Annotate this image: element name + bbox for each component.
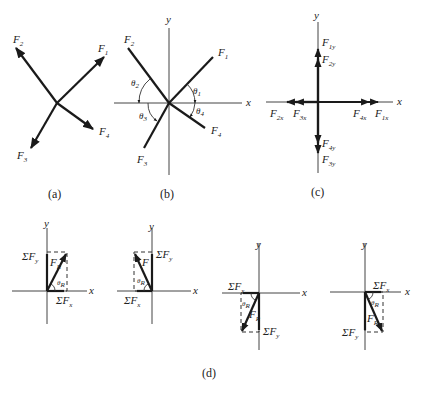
caption-b: (b) [160, 187, 174, 201]
label-sum-fy: ΣFy [262, 325, 280, 340]
panel-d1: y x ΣFy ΣFx FR θR [12, 217, 94, 324]
label-theta-r: θR [57, 279, 65, 289]
label-sum-fy: ΣFy [21, 250, 39, 265]
x-axis-label: x [245, 96, 251, 108]
label-f4: F4 [210, 124, 222, 139]
label-theta-r: θR [137, 277, 145, 287]
vector-f3 [31, 103, 57, 148]
vector-f2 [128, 48, 169, 103]
label-f1: F1 [217, 46, 228, 61]
label-theta3: θ3 [139, 111, 147, 123]
label-resultant: FR [49, 256, 62, 271]
angle-arc-theta4 [190, 103, 195, 117]
label-f3y: F3y [321, 153, 336, 168]
vector-f3 [144, 103, 169, 148]
label-f2: F2 [12, 33, 24, 48]
panel-d2: y x ΣFy ΣFx F θR [117, 220, 198, 324]
angle-arc-theta3 [148, 103, 157, 121]
panel-b: y x θ1 θ2 θ3 θ4 F1 F2 F3 F4 (b) [114, 13, 251, 201]
label-f4x: F4x [352, 107, 367, 122]
label-f3: F3 [136, 153, 148, 168]
caption-a: (a) [48, 187, 61, 201]
panel-d3: y x ΣFx ΣFy FR θR [222, 238, 307, 350]
vector-f4 [57, 103, 93, 129]
label-sum-fx: ΣFx [55, 294, 73, 309]
label-f3x: F3x [292, 107, 307, 122]
label-f3: F3 [16, 149, 28, 164]
caption-c: (c) [311, 185, 324, 199]
panel-d4: y x ΣFx ΣFy FR θR [330, 238, 410, 350]
label-theta-r: θR [242, 300, 250, 310]
y-axis-label: y [43, 217, 49, 229]
label-theta4: θ4 [196, 106, 204, 118]
y-axis-label: y [313, 9, 319, 21]
label-f1y: F1y [321, 36, 336, 51]
label-f1x: F1x [374, 107, 389, 122]
x-axis-label: x [404, 285, 410, 297]
y-axis-label: y [148, 220, 154, 232]
label-f2y: F2y [321, 53, 336, 68]
y-axis-label: y [165, 13, 171, 25]
x-axis-label: x [88, 284, 94, 296]
label-f4y: F4y [321, 137, 336, 152]
x-axis-label: x [301, 286, 307, 298]
label-theta2: θ2 [131, 78, 139, 90]
vector-f1 [169, 57, 213, 103]
label-resultant: FR [366, 312, 379, 327]
panel-a: F1 F2 F3 F4 (a) [12, 33, 110, 201]
y-axis-label: y [255, 238, 261, 250]
label-sum-fy: ΣFy [341, 326, 359, 341]
vector-f2 [16, 48, 57, 103]
panel-c: y x F1y F2y F2x F3x F4x F1x F4y F3y (c) [266, 9, 402, 199]
label-sum-fy: ΣFy [155, 248, 173, 263]
label-sum-fx: ΣFx [123, 294, 141, 309]
y-axis-label: y [361, 238, 367, 250]
label-resultant: F [141, 256, 149, 268]
label-f1: F1 [97, 42, 108, 57]
label-f2x: F2x [269, 107, 284, 122]
caption-d: (d) [202, 366, 216, 380]
x-axis-label: x [192, 284, 198, 296]
label-f2: F2 [123, 33, 135, 48]
force-diagram-figure: F1 F2 F3 F4 (a) y x θ1 θ2 θ3 θ4 F1 F2 F3… [0, 0, 424, 394]
vector-f1 [57, 57, 104, 103]
angle-arc-theta2 [139, 79, 150, 103]
x-axis-label: x [396, 95, 402, 107]
label-f4: F4 [98, 125, 110, 140]
